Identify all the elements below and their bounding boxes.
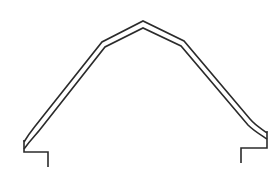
roof-profile-drawing — [0, 0, 280, 183]
roof-outline-svg — [0, 0, 280, 183]
roof-outer-line — [24, 21, 267, 142]
roof-inner-line — [24, 28, 267, 149]
